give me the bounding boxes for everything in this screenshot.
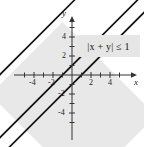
x-tick-label-2: 2 xyxy=(89,79,93,87)
coordinate-plane xyxy=(0,0,144,147)
y-tick-label-4: 4 xyxy=(62,33,66,41)
y-tick-label-neg4: -4 xyxy=(58,109,65,117)
y-tick-label-neg2: -2 xyxy=(58,90,65,98)
x-axis-label: x xyxy=(134,78,138,87)
y-axis-arrowhead xyxy=(69,16,75,22)
graph-figure: -4 -2 2 4 4 2 -2 -4 y x |x + y| ≤ 1 xyxy=(0,0,144,147)
x-tick-label-neg4: -4 xyxy=(29,79,36,87)
x-tick-label-4: 4 xyxy=(108,79,112,87)
inequality-label-box: |x + y| ≤ 1 xyxy=(77,35,140,57)
y-axis-label: y xyxy=(62,9,66,18)
inequality-text: |x + y| ≤ 1 xyxy=(87,41,129,52)
x-tick-label-neg2: -2 xyxy=(48,79,55,87)
y-tick-label-2: 2 xyxy=(62,52,66,60)
